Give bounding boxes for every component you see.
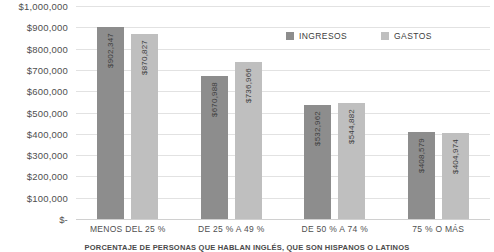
- bar-ingresos[interactable]: $532,962: [304, 105, 331, 219]
- bar-group: $670,988$736,966: [180, 6, 284, 219]
- bar-ingresos[interactable]: $670,988: [201, 76, 228, 219]
- y-axis-tick-label: $300,000: [27, 150, 68, 161]
- bar-gastos[interactable]: $404,974: [442, 133, 469, 219]
- bar-ingresos[interactable]: $408,579: [408, 132, 435, 219]
- bar-value-label: $404,974: [451, 139, 460, 174]
- axis-baseline: [76, 219, 490, 220]
- chart-caption: PORCENTAJE DE PERSONAS QUE HABLAN INGLÉS…: [0, 243, 494, 252]
- y-axis-tick-label: $1,000,000: [18, 1, 68, 12]
- bar-value-label: $532,962: [313, 111, 322, 146]
- x-axis-category-label: 75 % O MÁS: [412, 224, 464, 234]
- bar-gastos[interactable]: $870,827: [131, 34, 158, 219]
- legend-swatch-gastos: [381, 32, 389, 40]
- y-axis: $1,000,000$900,000$800,000$700,000$600,0…: [0, 0, 72, 220]
- y-axis-tick-label: $-: [59, 214, 68, 225]
- x-axis-category-label: DE 50 % A 74 %: [301, 224, 368, 234]
- y-axis-tick-label: $200,000: [27, 171, 68, 182]
- bar-group: $902,347$870,827: [76, 6, 180, 219]
- y-axis-tick-label: $500,000: [27, 107, 68, 118]
- legend-label-gastos: GASTOS: [394, 31, 432, 41]
- y-axis-tick-label: $700,000: [27, 64, 68, 75]
- legend-swatch-ingresos: [286, 32, 294, 40]
- bar-value-label: $544,882: [347, 109, 356, 144]
- legend-item-ingresos[interactable]: INGRESOS: [286, 31, 347, 41]
- bar-value-label: $670,988: [210, 82, 219, 117]
- y-axis-tick-label: $800,000: [27, 43, 68, 54]
- y-axis-tick-label: $400,000: [27, 128, 68, 139]
- legend-item-gastos[interactable]: GASTOS: [381, 31, 432, 41]
- chart-legend: INGRESOS GASTOS: [286, 31, 432, 41]
- x-axis-categories: MENOS DEL 25 %DE 25 % A 49 %DE 50 % A 74…: [76, 224, 490, 236]
- x-axis-category-label: DE 25 % A 49 %: [198, 224, 265, 234]
- y-axis-tick-label: $900,000: [27, 22, 68, 33]
- legend-label-ingresos: INGRESOS: [299, 31, 347, 41]
- x-axis-category-label: MENOS DEL 25 %: [90, 224, 166, 234]
- bar-gastos[interactable]: $544,882: [338, 103, 365, 219]
- y-axis-tick-label: $100,000: [27, 192, 68, 203]
- bar-value-label: $408,579: [417, 138, 426, 173]
- bar-ingresos[interactable]: $902,347: [97, 27, 124, 219]
- bar-value-label: $902,347: [106, 33, 115, 68]
- y-axis-tick-label: $600,000: [27, 86, 68, 97]
- bar-value-label: $870,827: [140, 40, 149, 75]
- bar-value-label: $736,966: [244, 68, 253, 103]
- bar-gastos[interactable]: $736,966: [235, 62, 262, 219]
